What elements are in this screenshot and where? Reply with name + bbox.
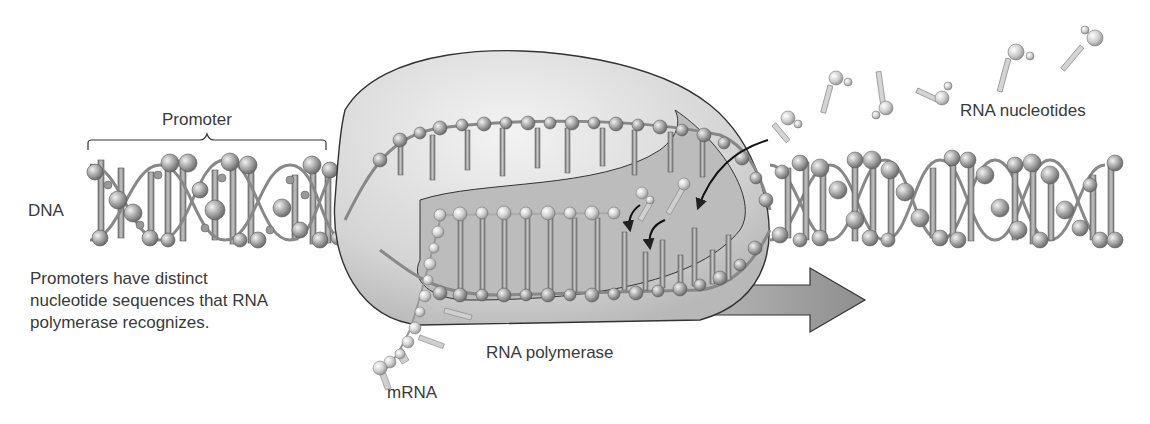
- promoter-bracket: [88, 134, 326, 150]
- caption-line-3: polymerase recognizes.: [30, 312, 268, 334]
- rna-polymerase-label: RNA polymerase: [486, 342, 614, 364]
- nucleotide-3: [872, 71, 893, 119]
- rna-nucleotides-label: RNA nucleotides: [960, 100, 1086, 122]
- nucleotide-4: [916, 82, 952, 105]
- nucleotide-1: [772, 111, 802, 143]
- dna-label: DNA: [28, 200, 64, 222]
- nucleotide-6: [1061, 26, 1103, 71]
- dna-helix-left: [87, 153, 345, 248]
- free-rna-nucleotides: [772, 26, 1103, 143]
- nucleotide-5: [997, 44, 1034, 92]
- promoter-label: Promoter: [162, 109, 232, 131]
- promoter-caption: Promoters have distinct nucleotide seque…: [30, 268, 268, 334]
- caption-line-1: Promoters have distinct: [30, 268, 268, 290]
- dna-helix-right: [770, 150, 1123, 248]
- caption-line-2: nucleotide sequences that RNA: [30, 290, 268, 312]
- mrna-label: mRNA: [387, 382, 437, 404]
- nucleotide-2: [821, 71, 852, 113]
